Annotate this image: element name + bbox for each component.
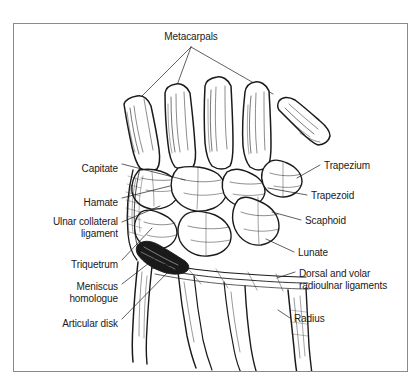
label-trapezium: Trapezium	[324, 160, 414, 172]
label-hamate: Hamate	[18, 197, 118, 209]
label-capitate: Capitate	[18, 163, 118, 175]
label-dorsal-volar-radioulnar-ligaments: Dorsal and volar radioulnar ligaments	[299, 268, 409, 291]
label-articular-disk: Articular disk	[18, 318, 118, 330]
label-radius: Radius	[294, 313, 384, 325]
label-triquetrum: Triquetrum	[18, 259, 118, 271]
figure-page: Metacarpals Capitate Hamate Ulnar collat…	[0, 0, 420, 384]
metacarpal-bones	[124, 77, 330, 171]
label-lunate: Lunate	[298, 247, 388, 259]
label-meniscus-homologue: Meniscus homologue	[18, 281, 118, 304]
label-trapezoid: Trapezoid	[311, 190, 401, 202]
label-metacarpals: Metacarpals	[141, 31, 241, 43]
radioulnar-ligaments	[150, 262, 309, 291]
label-scaphoid: Scaphoid	[305, 215, 395, 227]
label-ulnar-collateral-ligament: Ulnar collateral ligament	[18, 216, 118, 239]
